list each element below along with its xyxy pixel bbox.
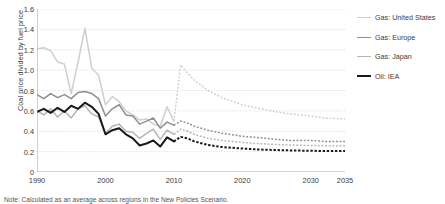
x-tick-label: 2010	[166, 176, 182, 185]
legend-item-label: Oil: IEA	[375, 72, 399, 81]
legend-swatch-line-icon	[357, 75, 371, 77]
x-tick-label: 2000	[97, 176, 113, 185]
legend-item-label: Gas: United States	[375, 13, 435, 22]
chart-figure: Coal price divided by fuel price 00.20.4…	[0, 0, 445, 204]
y-tick-label: 0.2	[24, 147, 34, 156]
legend-item-label: Gas: Japan	[375, 52, 412, 61]
chart-note: Note: Calculated as an average across re…	[4, 196, 228, 203]
legend-swatch-line-icon	[357, 37, 371, 38]
x-tick-label: 2035	[337, 176, 353, 185]
y-tick-label: 1.6	[24, 5, 34, 14]
legend-item[interactable]: Gas: Japan	[357, 47, 445, 67]
x-tick-label: 1990	[29, 176, 45, 185]
y-tick-label: 1.4	[24, 25, 34, 34]
x-tick-label: 2020	[234, 176, 250, 185]
series-line-projection	[174, 121, 345, 141]
legend-item[interactable]: Gas: United States	[357, 8, 445, 28]
legend-swatch-line-icon	[357, 17, 371, 18]
y-tick-label: 1.0	[24, 66, 34, 75]
plot-canvas	[37, 9, 345, 172]
legend-swatch-line-icon	[357, 56, 371, 57]
series-line-historical	[37, 92, 174, 129]
y-tick-label: 0.8	[24, 86, 34, 95]
legend-item-label: Gas: Europe	[375, 33, 415, 42]
y-tick-label: 0.4	[24, 127, 34, 136]
plot-area: 00.20.40.60.81.01.21.41.6 19902000201020…	[37, 9, 345, 172]
chart-legend: Gas: United StatesGas: EuropeGas: JapanO…	[357, 8, 445, 86]
legend-item[interactable]: Gas: Europe	[357, 28, 445, 48]
series-line-historical	[37, 28, 174, 126]
y-tick-label: 0.6	[24, 106, 34, 115]
series-line-projection	[174, 65, 345, 121]
x-tick-label: 2030	[303, 176, 319, 185]
y-tick-label: 1.2	[24, 45, 34, 54]
series-line-projection	[174, 129, 345, 146]
series-line-projection	[174, 137, 345, 151]
legend-item[interactable]: Oil: IEA	[357, 67, 445, 87]
